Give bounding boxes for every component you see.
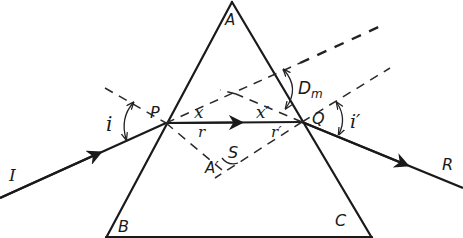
label-base-b: B — [118, 217, 129, 236]
incident-ray — [0, 123, 166, 198]
label-normals-intersection: A′ — [204, 159, 219, 177]
angle-arc-i-prime — [337, 103, 343, 134]
label-deviation-subscript: m — [311, 87, 323, 101]
prism-refraction-diagram: A B C P Q I R i i′ x x′ r r′ Dm A′ S — [0, 0, 463, 238]
label-angle-s: S — [228, 143, 238, 162]
label-base-c: C — [335, 211, 347, 230]
label-angle-r-prime: r′ — [271, 123, 282, 141]
label-deviation-d: D — [298, 78, 311, 98]
angle-arc-i — [124, 103, 133, 139]
label-emergent-ray: R — [442, 155, 453, 174]
label-angle-i-prime: i′ — [350, 110, 361, 132]
label-angle-i: i — [106, 112, 112, 136]
emergent-ray — [302, 122, 463, 188]
label-angle-x: x — [194, 102, 204, 122]
label-point-p: P — [150, 103, 160, 122]
label-apex-a: A — [224, 11, 235, 29]
x-reference-dashed — [220, 90, 236, 94]
label-point-q: Q — [312, 109, 325, 128]
label-angle-x-prime: x′ — [256, 102, 270, 122]
refracted-ray — [166, 122, 302, 123]
prism — [106, 2, 372, 238]
label-angle-r: r — [198, 123, 206, 141]
incident-extension-dashed-heavy — [300, 24, 385, 63]
label-deviation: Dm — [298, 78, 323, 101]
label-incident-ray: I — [8, 165, 16, 185]
